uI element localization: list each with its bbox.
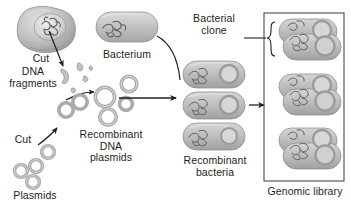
diagram-graphics [0, 0, 351, 211]
source-cell-graphic [17, 6, 75, 52]
label-dna-fragments: DNA fragments [3, 66, 63, 89]
label-genomic-library: Genomic library [264, 186, 346, 198]
label-cut-top: Cut [21, 53, 61, 65]
label-bacterium: Bacterium [94, 49, 160, 61]
plasmid-pool-highlights [15, 146, 55, 189]
clone-bracket [267, 22, 275, 56]
genomic-library-diagram: Cut DNA fragments Cut Plasmids Recombina… [0, 0, 351, 211]
label-cut-bottom: Cut [6, 134, 40, 146]
recombinant-bacteria-graphic [183, 61, 245, 150]
bacterium-graphic [96, 12, 158, 42]
dna-fragments-graphic [61, 63, 92, 93]
bacterial-clone-3 [279, 128, 341, 169]
plasmid-pool-graphic [15, 146, 55, 189]
recombinant-plasmids-graphic [59, 76, 137, 125]
label-bacterial-clone: Bacterial clone [184, 13, 244, 36]
label-recombinant-plasmids: Recombinant DNA plasmids [64, 129, 158, 164]
bacterial-clone-1 [279, 19, 341, 60]
label-plasmids: Plasmids [2, 190, 68, 202]
label-recombinant-bacteria: Recombinant bacteria [176, 155, 254, 178]
bacterium-leader-line [157, 36, 180, 80]
bacterial-clone-2 [279, 74, 341, 115]
cut-to-recombinant-arrow [38, 128, 57, 145]
